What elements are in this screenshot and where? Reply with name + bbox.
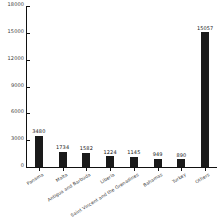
bar-rect[interactable] xyxy=(82,153,90,167)
y-axis-tick-label: 0 xyxy=(21,163,24,168)
y-axis-tick-label: 15000 xyxy=(8,29,24,34)
x-axis-category-label: Others xyxy=(195,172,211,185)
x-axis-category-label: Liberia xyxy=(100,172,116,185)
y-axis-tick-label: 12000 xyxy=(8,56,24,61)
bar-value-label: 949 xyxy=(153,151,163,157)
y-axis-tick-label: 18000 xyxy=(8,2,24,7)
bar-rect[interactable] xyxy=(59,152,67,168)
x-axis-category-label: Bahamas xyxy=(142,172,163,188)
bar-value-label: 1582 xyxy=(80,145,93,151)
bar-rect[interactable] xyxy=(35,136,43,167)
bar-rect[interactable] xyxy=(177,159,185,167)
bar-value-label: 890 xyxy=(176,152,186,158)
x-axis-line xyxy=(26,167,217,168)
bar-group[interactable]: 15057 xyxy=(201,6,209,167)
bar-value-label: 1224 xyxy=(104,149,117,155)
bar-group[interactable]: 1734 xyxy=(59,6,67,167)
x-axis-category-label: Malta xyxy=(55,172,69,183)
bar-chart: 0300060009000120001500018000 34801734158… xyxy=(0,0,221,218)
bar-group[interactable]: 949 xyxy=(154,6,162,167)
y-axis-tick-label: 6000 xyxy=(11,109,24,114)
x-axis-tick-mark xyxy=(158,168,159,171)
bar-value-label: 15057 xyxy=(197,25,213,31)
bar-rect[interactable] xyxy=(154,159,162,167)
x-axis-tick-mark xyxy=(134,168,135,171)
bar-group[interactable]: 1145 xyxy=(130,6,138,167)
y-axis-tick-mark xyxy=(27,167,30,168)
bar-rect[interactable] xyxy=(106,156,114,167)
y-axis-tick-label: 3000 xyxy=(11,136,24,141)
bar-group[interactable]: 890 xyxy=(177,6,185,167)
bar-rect[interactable] xyxy=(130,157,138,167)
bar-group[interactable]: 1224 xyxy=(106,6,114,167)
plot-area: 3480173415821224114594989015057 xyxy=(27,6,217,167)
x-axis-tick-mark xyxy=(181,168,182,171)
x-axis-tick-mark xyxy=(86,168,87,171)
bar-value-label: 3480 xyxy=(32,128,45,134)
x-axis-category-label: Panama xyxy=(26,172,45,186)
y-axis-tick-label: 9000 xyxy=(11,83,24,88)
x-axis-tick-mark xyxy=(110,168,111,171)
bar-rect[interactable] xyxy=(201,32,209,167)
bar-value-label: 1145 xyxy=(127,149,140,155)
x-axis-category-label: Antigua and Barbuda xyxy=(47,172,92,203)
x-axis-category-label: Turkey xyxy=(172,172,188,184)
bar-group[interactable]: 1582 xyxy=(82,6,90,167)
bar-value-label: 1734 xyxy=(56,144,69,150)
x-axis-tick-mark xyxy=(63,168,64,171)
x-axis-tick-mark xyxy=(39,168,40,171)
bar-group[interactable]: 3480 xyxy=(35,6,43,167)
x-axis-tick-mark xyxy=(205,168,206,171)
